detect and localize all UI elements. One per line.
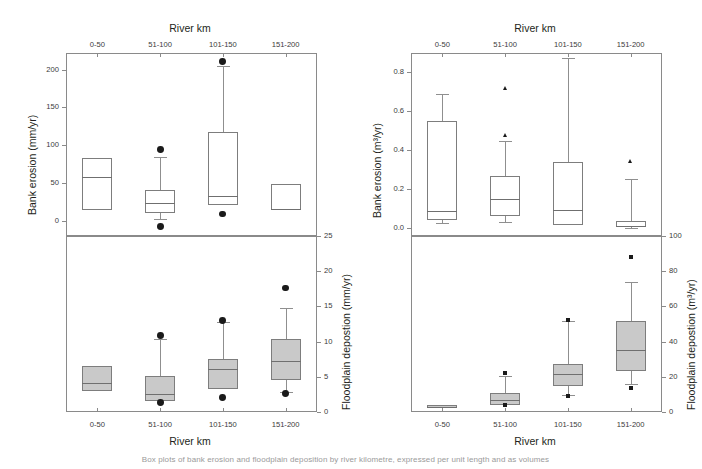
y-tick-mark	[317, 377, 321, 378]
median-line	[490, 400, 520, 401]
y-tick-mark	[662, 342, 666, 343]
y-tick-mark	[662, 271, 666, 272]
outlier-point	[157, 399, 164, 406]
x-tick-label: 151-200	[256, 420, 316, 429]
x-tick-mark	[568, 408, 569, 412]
y-tick-mark	[407, 228, 411, 229]
median-line	[553, 210, 583, 211]
x-tick-label: 51-100	[130, 420, 190, 429]
median-line	[82, 383, 112, 384]
x-tick-mark	[442, 408, 443, 412]
y-tick-label: 0.2	[371, 184, 404, 193]
whisker-cap-upper	[625, 179, 638, 180]
box-body	[490, 176, 520, 216]
y-tick-mark	[662, 412, 666, 413]
median-line	[553, 374, 583, 375]
x-tick-label: 0-50	[67, 420, 127, 429]
box-body	[208, 359, 238, 389]
y-tick-label: 0.6	[371, 106, 404, 115]
y-tick-label: 0	[324, 407, 357, 416]
x-tick-mark	[223, 408, 224, 412]
x-tick-label: 51-100	[130, 40, 190, 49]
y-tick-mark	[317, 306, 321, 307]
median-line	[145, 203, 175, 204]
y-tick-mark	[662, 306, 666, 307]
whisker-lower	[505, 216, 506, 223]
box-body	[271, 184, 301, 210]
whisker-upper	[631, 282, 632, 322]
x-tick-label: 101-150	[193, 420, 253, 429]
median-line	[271, 361, 301, 362]
y-tick-label: 25	[324, 231, 357, 240]
y-tick-label: 10	[324, 337, 357, 346]
box-body	[616, 321, 646, 370]
figure-caption: Box plots of bank erosion and floodplain…	[0, 455, 691, 469]
y-tick-label: 200	[26, 65, 59, 74]
x-tick-label: 101-150	[538, 420, 598, 429]
median-line	[82, 177, 112, 178]
y-tick-mark	[317, 342, 321, 343]
y-tick-label: 60	[669, 301, 702, 310]
y-tick-label: 0.8	[371, 67, 404, 76]
outlier-point	[503, 371, 507, 375]
box-body	[271, 339, 301, 379]
y-tick-mark	[407, 150, 411, 151]
x-tick-label: 151-200	[601, 420, 661, 429]
whisker-cap-upper	[217, 66, 230, 67]
y-tick-mark	[317, 412, 321, 413]
y-tick-mark	[62, 183, 66, 184]
median-line	[271, 209, 301, 210]
median-line	[616, 226, 646, 227]
whisker-upper	[160, 339, 161, 376]
box-body	[427, 121, 457, 220]
outlier-point	[157, 146, 164, 153]
outlier-point	[157, 332, 164, 339]
x-tick-mark	[286, 408, 287, 412]
box-body	[82, 158, 112, 209]
y-tick-mark	[62, 145, 66, 146]
whisker-upper	[286, 308, 287, 340]
y-tick-mark	[317, 236, 321, 237]
x-tick-label: 51-100	[475, 420, 535, 429]
top-right-axis-title: River km	[405, 22, 665, 34]
x-tick-mark	[631, 408, 632, 412]
outlier-point	[219, 394, 226, 401]
y-tick-mark	[62, 221, 66, 222]
top-left-axis-title: River km	[60, 22, 320, 34]
y-tick-mark	[62, 107, 66, 108]
whisker-lower	[631, 371, 632, 384]
y-tick-label: 100	[669, 231, 702, 240]
x-tick-label: 0-50	[412, 40, 472, 49]
median-line	[208, 196, 238, 197]
outlier-point	[566, 318, 570, 322]
y-tick-label: 0.4	[371, 145, 404, 154]
median-line	[427, 211, 457, 212]
whisker-cap-lower	[154, 219, 167, 220]
box-body	[82, 366, 112, 391]
y-tick-label: 5	[324, 372, 357, 381]
y-tick-label: 20	[324, 266, 357, 275]
whisker-cap-lower	[625, 384, 638, 385]
whisker-upper	[160, 157, 161, 190]
outlier-point	[566, 394, 570, 398]
whisker-cap-lower	[436, 223, 449, 224]
outlier-point	[628, 159, 632, 163]
whisker-upper	[568, 58, 569, 162]
y-tick-label: 15	[324, 301, 357, 310]
x-tick-label: 0-50	[412, 420, 472, 429]
y-tick-label: 50	[26, 178, 59, 187]
whisker-upper	[442, 94, 443, 121]
y-tick-label: 0.0	[371, 223, 404, 232]
y-tick-mark	[662, 377, 666, 378]
y-tick-mark	[407, 72, 411, 73]
y-tick-label: 20	[669, 372, 702, 381]
x-tick-label: 151-200	[256, 40, 316, 49]
whisker-cap-lower	[625, 228, 638, 229]
top-left-y-axis-label: Bank erosion (mm/yr)	[26, 115, 38, 215]
y-tick-mark	[407, 111, 411, 112]
median-line	[490, 199, 520, 200]
y-tick-mark	[407, 189, 411, 190]
whisker-upper	[223, 322, 224, 359]
median-line	[145, 394, 175, 395]
